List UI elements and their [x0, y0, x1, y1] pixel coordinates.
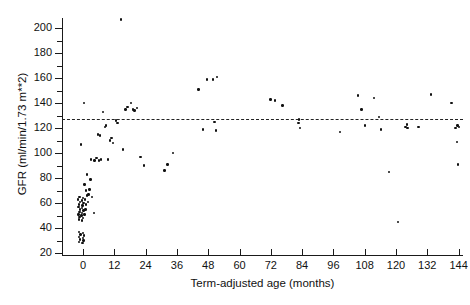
- data-point: [81, 204, 83, 206]
- data-point: [357, 94, 359, 96]
- data-point: [406, 123, 408, 125]
- data-point: [77, 206, 79, 208]
- data-point: [87, 193, 89, 195]
- data-point: [202, 128, 204, 130]
- data-point: [130, 102, 132, 104]
- data-point: [77, 198, 79, 200]
- data-point: [78, 203, 80, 205]
- data-point: [417, 126, 419, 128]
- data-point: [364, 124, 366, 126]
- scatter-plot-figure: 20406080100120140160180200 0122436486072…: [0, 0, 470, 305]
- data-point: [458, 126, 460, 128]
- data-point: [110, 137, 112, 139]
- data-point: [102, 111, 104, 113]
- data-point: [298, 118, 300, 120]
- data-point: [116, 122, 118, 124]
- data-point: [90, 158, 92, 160]
- data-point: [82, 217, 84, 219]
- data-point: [457, 163, 459, 165]
- data-point: [120, 18, 122, 20]
- data-point: [82, 239, 84, 241]
- data-point: [139, 156, 141, 158]
- data-point: [133, 109, 135, 111]
- data-point: [213, 121, 215, 123]
- data-point: [112, 142, 114, 144]
- data-point: [450, 102, 452, 104]
- data-point: [81, 207, 83, 209]
- data-point: [99, 134, 101, 136]
- data-point: [378, 116, 380, 118]
- data-point: [80, 143, 82, 145]
- data-point: [78, 218, 80, 220]
- data-point: [380, 128, 382, 130]
- data-point: [87, 201, 89, 203]
- y-axis-title: GFR (ml/min/1.73 m**2): [16, 44, 28, 224]
- data-point: [78, 231, 80, 233]
- data-point: [124, 108, 126, 110]
- data-point: [107, 158, 109, 160]
- data-point: [78, 241, 80, 243]
- data-point: [339, 131, 341, 133]
- data-point: [81, 242, 83, 244]
- data-point: [388, 171, 390, 173]
- data-point: [373, 97, 375, 99]
- data-point: [83, 102, 85, 104]
- data-point: [83, 213, 85, 215]
- data-point: [274, 99, 276, 101]
- data-point: [81, 219, 83, 221]
- data-point: [430, 93, 432, 95]
- data-point: [79, 238, 81, 240]
- data-point: [88, 188, 90, 190]
- data-point: [216, 76, 218, 78]
- data-point: [85, 189, 87, 191]
- data-point: [454, 127, 456, 129]
- data-point: [83, 234, 85, 236]
- data-point: [360, 108, 362, 110]
- data-point: [406, 127, 408, 129]
- data-point: [397, 221, 399, 223]
- data-point: [126, 106, 128, 108]
- data-point: [212, 78, 214, 80]
- data-point: [143, 164, 145, 166]
- data-point: [166, 163, 168, 165]
- data-point: [81, 199, 83, 201]
- data-point: [163, 169, 165, 171]
- data-point: [82, 237, 84, 239]
- data-point: [206, 78, 208, 80]
- data-point: [269, 98, 271, 100]
- data-point: [84, 198, 86, 200]
- data-point: [136, 107, 138, 109]
- data-point: [122, 148, 124, 150]
- data-point: [281, 104, 283, 106]
- data-point: [93, 159, 95, 161]
- data-point: [91, 196, 93, 198]
- data-point: [83, 183, 85, 185]
- data-point: [93, 212, 95, 214]
- data-point: [84, 208, 86, 210]
- data-point: [297, 122, 299, 124]
- data-points-layer: [0, 0, 470, 305]
- data-point: [78, 196, 80, 198]
- data-point: [89, 178, 91, 180]
- x-axis-title: Term-adjusted age (months): [62, 277, 463, 289]
- data-point: [86, 173, 88, 175]
- data-point: [80, 214, 82, 216]
- data-point: [456, 141, 458, 143]
- data-point: [299, 127, 301, 129]
- data-point: [85, 203, 87, 205]
- data-point: [105, 124, 107, 126]
- data-point: [197, 88, 199, 90]
- data-point: [77, 213, 79, 215]
- data-point: [109, 139, 111, 141]
- data-point: [172, 152, 174, 154]
- data-point: [100, 158, 102, 160]
- data-point: [215, 129, 217, 131]
